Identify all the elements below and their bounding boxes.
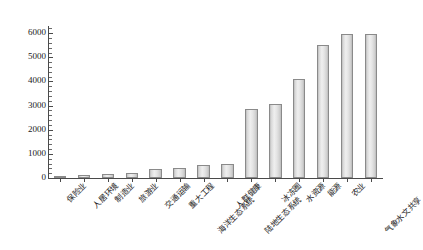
- x-tick-label: 气象水文共享: [383, 195, 423, 235]
- y-tick-label: 4000: [6, 76, 46, 85]
- x-tick: [204, 179, 205, 182]
- y-tick-minor: [49, 48, 52, 49]
- y-tick-minor: [49, 115, 52, 116]
- y-tick-major: [49, 81, 53, 82]
- y-tick-major: [49, 33, 53, 34]
- bar: [173, 168, 185, 178]
- bar: [54, 176, 66, 178]
- y-tick-minor: [49, 168, 52, 169]
- x-tick: [180, 179, 181, 182]
- x-tick: [275, 179, 276, 182]
- y-tick-major: [49, 154, 53, 155]
- plot-area: [48, 26, 383, 178]
- x-tick: [60, 179, 61, 182]
- y-tick-major: [49, 130, 53, 131]
- y-tick-major: [49, 106, 53, 107]
- y-tick-minor: [49, 96, 52, 97]
- bar: [126, 173, 138, 178]
- x-tick-label: 水资源: [304, 181, 327, 204]
- x-tick: [251, 179, 252, 182]
- bar: [102, 174, 114, 178]
- y-tick-label: 6000: [6, 28, 46, 37]
- y-tick-label: 5000: [6, 52, 46, 61]
- x-tick: [227, 179, 228, 182]
- y-tick-major: [49, 178, 53, 179]
- y-axis-line: [48, 26, 49, 178]
- y-tick-minor: [49, 53, 52, 54]
- bar: [197, 165, 209, 179]
- y-tick-minor: [49, 43, 52, 44]
- y-tick-label: 2000: [6, 125, 46, 134]
- x-tick: [132, 179, 133, 182]
- y-tick-minor: [49, 139, 52, 140]
- y-tick-minor: [49, 159, 52, 160]
- bar: [245, 109, 257, 178]
- y-tick-minor: [49, 77, 52, 78]
- y-tick-minor: [49, 164, 52, 165]
- y-tick-minor: [49, 135, 52, 136]
- y-tick-label: 3000: [6, 101, 46, 110]
- y-tick-minor: [49, 144, 52, 145]
- y-tick-minor: [49, 120, 52, 121]
- y-tick-label: 1000: [6, 149, 46, 158]
- y-tick-minor: [49, 91, 52, 92]
- bar: [341, 34, 353, 178]
- y-tick-minor: [49, 86, 52, 87]
- y-tick-minor: [49, 101, 52, 102]
- bar: [317, 45, 329, 178]
- y-tick-minor: [49, 110, 52, 111]
- x-tick-label: 交通运输: [163, 181, 192, 210]
- y-tick-minor: [49, 38, 52, 39]
- x-tick: [84, 179, 85, 182]
- x-tick: [299, 179, 300, 182]
- bar: [221, 164, 233, 178]
- bar: [269, 104, 281, 178]
- x-tick: [371, 179, 372, 182]
- x-tick-label: 旅游业: [137, 181, 160, 204]
- bar: [149, 169, 161, 178]
- x-tick-label: 能源: [326, 181, 344, 199]
- x-tick: [323, 179, 324, 182]
- x-tick-label: 农业: [350, 181, 368, 199]
- bar: [365, 34, 377, 178]
- x-tick: [347, 179, 348, 182]
- y-tick-minor: [49, 173, 52, 174]
- y-tick-minor: [49, 149, 52, 150]
- x-tick: [108, 179, 109, 182]
- bar: [78, 175, 90, 178]
- y-tick-major: [49, 57, 53, 58]
- x-tick: [156, 179, 157, 182]
- x-axis-line: [48, 178, 383, 179]
- y-tick-minor: [49, 28, 52, 29]
- y-tick-minor: [49, 67, 52, 68]
- y-tick-minor: [49, 125, 52, 126]
- y-tick-label: 0: [6, 173, 46, 182]
- y-tick-minor: [49, 72, 52, 73]
- x-tick-label: 保险业: [65, 181, 88, 204]
- y-tick-minor: [49, 62, 52, 63]
- bar: [293, 79, 305, 178]
